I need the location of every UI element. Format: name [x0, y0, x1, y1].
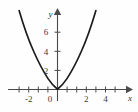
y-tick-label-4: 4 [44, 47, 49, 57]
y-tick-label-2: 2 [44, 66, 49, 76]
y-axis-label: y [48, 9, 53, 19]
y-tick-label-6: 6 [44, 27, 49, 37]
parabola-figure: 2 4 6 -2 0 2 4 y x [0, 0, 138, 112]
origin-label: 0 [48, 94, 53, 104]
chart-canvas: 2 4 6 -2 0 2 4 y x [0, 0, 138, 112]
x-tick-label-4: 4 [103, 94, 108, 104]
x-axis-label: x [127, 93, 132, 103]
y-axis-arrow-icon [54, 8, 61, 15]
x-tick-label-2: 2 [84, 94, 89, 104]
x-tick-label-neg2: -2 [25, 94, 33, 104]
